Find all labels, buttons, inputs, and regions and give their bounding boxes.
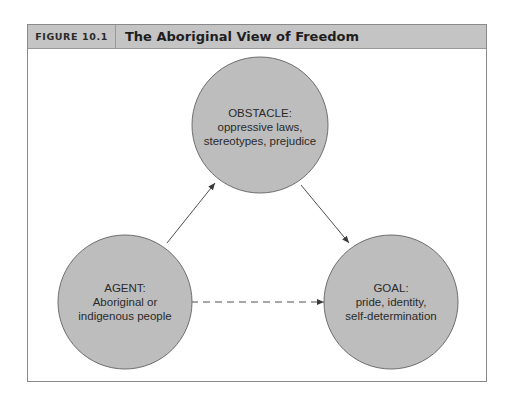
- diagram-canvas: OBSTACLE: oppressive laws, stereotypes, …: [0, 0, 513, 402]
- node-goal: GOAL: pride, identity, self-determinatio…: [324, 235, 458, 369]
- node-agent: AGENT: Aboriginal or indigenous people: [58, 235, 192, 369]
- agent-heading: AGENT:: [104, 282, 146, 294]
- edge-agent-to-obstacle: [167, 183, 215, 243]
- obstacle-heading: OBSTACLE:: [228, 107, 292, 119]
- goal-line-1: pride, identity,: [356, 296, 427, 308]
- obstacle-line-1: oppressive laws,: [217, 121, 302, 133]
- goal-heading: GOAL:: [373, 282, 408, 294]
- node-obstacle: OBSTACLE: oppressive laws, stereotypes, …: [192, 57, 328, 193]
- agent-line-2: indigenous people: [78, 310, 171, 322]
- obstacle-line-2: stereotypes, prejudice: [204, 135, 317, 147]
- agent-line-1: Aboriginal or: [93, 296, 158, 308]
- goal-line-2: self-determination: [345, 310, 436, 322]
- edge-obstacle-to-goal: [301, 185, 349, 243]
